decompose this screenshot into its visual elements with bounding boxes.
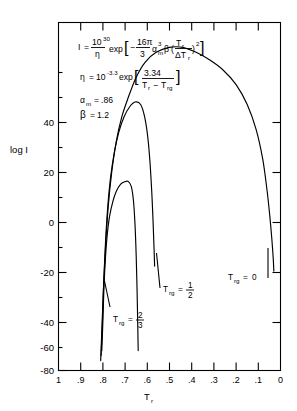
x-tick-label: .5 — [166, 375, 174, 385]
curve-label-trg-1-2: T rg = 1 2 — [163, 281, 194, 300]
param2-equals: = — [90, 110, 95, 120]
curve-label-trg-0: T rg = 0 — [228, 273, 257, 284]
x-tick-labels: 1 .9 .8 .7 .6 .5 .4 .3 .2 .1 0 — [56, 375, 283, 385]
y-axis-ticks — [59, 73, 67, 371]
curve-label-numerator: 2 — [138, 311, 143, 320]
y-axis-title: log I — [10, 144, 28, 155]
y-tick-label: -40 — [40, 317, 54, 328]
x-tick-label: .8 — [99, 375, 107, 385]
parameter-alpha-m: α m = .86 — [80, 95, 113, 107]
eq1-paren-close: ) — [192, 44, 195, 54]
x-axis-ticks-top — [81, 23, 259, 31]
param1-equals: = — [94, 95, 99, 105]
x-tick-label: .3 — [210, 375, 218, 385]
y-tick-label: -20 — [40, 267, 54, 278]
param1-subscript: m — [86, 100, 91, 107]
curve-label-symbol: T — [228, 273, 233, 282]
curve-label-trg-2-3: T rg = 2 3 — [113, 311, 144, 330]
chart-svg: 40 20 0 -20 -40 -60 -80 log I 1 .9 .8 .7… — [0, 0, 297, 411]
param2-symbol: β — [80, 109, 86, 120]
eq1-frac2-numerator: 16π — [137, 37, 153, 47]
curve-label-subscript: rg — [234, 277, 240, 284]
y-tick-label: 40 — [43, 117, 54, 128]
x-tick-label: .9 — [77, 375, 85, 385]
y-tick-label: -80 — [40, 365, 54, 376]
eq2-bracket-close: ] — [176, 68, 180, 85]
y-axis-ticks-right — [273, 123, 281, 323]
x-tick-label: .6 — [144, 375, 152, 385]
eq1-prefactor-numerator: 10 — [92, 37, 102, 47]
eq1-equals: = — [84, 42, 89, 52]
curve-trg-0 — [101, 47, 274, 361]
eq2-frac-numerator: 3.34 — [144, 68, 161, 78]
eq1-alpha-subscript: m — [158, 49, 163, 56]
curve-label-symbol: T — [163, 285, 168, 294]
eq1-alpha-exponent: 3 — [158, 40, 162, 47]
curve-label-equals: = — [243, 273, 248, 282]
eq1-inner-denominator-sub: r — [188, 54, 190, 61]
eq2-frac-den-b-sub: rg — [167, 84, 173, 91]
eq1-bracket-open: [ — [124, 39, 129, 56]
x-axis-title-main: T — [144, 391, 150, 402]
x-tick-label: .4 — [188, 375, 196, 385]
eq1-minus: − — [130, 42, 135, 52]
eq1-beta: β — [164, 44, 169, 54]
eq1-bracket-close: ] — [200, 39, 204, 56]
x-axis-title-sub: r — [151, 397, 153, 404]
nucleation-rate-chart: 40 20 0 -20 -40 -60 -80 log I 1 .9 .8 .7… — [0, 0, 297, 411]
eq1-inner-denominator: ΔT — [175, 50, 187, 60]
curve-label-subscript: rg — [119, 319, 125, 326]
x-tick-label: 1 — [56, 375, 61, 385]
curve-label-subscript: rg — [169, 289, 175, 296]
eq1-frac2-denominator: 3 — [140, 49, 145, 59]
y-tick-label: 20 — [43, 167, 54, 178]
eq2-base: 10 — [96, 72, 106, 82]
param2-value: 1.2 — [97, 110, 109, 120]
curve-label-numerator: 1 — [188, 281, 193, 290]
eq1-inner-numerator-sub: r — [182, 42, 184, 49]
eq2-frac-den-minus: − — [153, 80, 158, 90]
y-tick-label: 0 — [49, 217, 54, 228]
eq2-lhs: η — [80, 72, 85, 82]
x-tick-label: 0 — [278, 375, 283, 385]
eq1-prefactor-exponent: 30 — [103, 35, 110, 42]
eq2-bracket-open: [ — [134, 68, 139, 85]
x-tick-label: .2 — [232, 375, 240, 385]
eq2-frac-den-a-sub: r — [148, 84, 150, 91]
eq1-prefactor-denominator: η — [95, 49, 100, 59]
equation-viscosity: η = 10 -3.3 exp [ 3.34 T r − T rg ] — [80, 68, 180, 91]
curve-label-denominator: 3 — [138, 321, 143, 330]
param1-value: .86 — [101, 95, 113, 105]
x-tick-label: .7 — [121, 375, 129, 385]
x-axis-title: T r — [144, 391, 153, 404]
eq2-exp-text: exp — [119, 72, 133, 82]
param1-symbol: α — [80, 95, 85, 105]
eq1-lhs: I — [78, 42, 80, 52]
x-axis-ticks — [81, 363, 259, 371]
eq1-alpha: α — [152, 44, 157, 54]
eq2-base-exponent: -3.3 — [107, 69, 118, 76]
parameter-beta: β = 1.2 — [80, 109, 109, 120]
curve-label-equals: = — [178, 285, 183, 294]
y-tick-labels: 40 20 0 -20 -40 -60 -80 — [40, 117, 54, 376]
curve-label-denominator: 2 — [188, 291, 193, 300]
eq1-paren-open: ( — [171, 44, 174, 54]
x-tick-label: .1 — [255, 375, 263, 385]
y-tick-label: -60 — [40, 342, 54, 353]
eq1-exp-text: exp — [109, 44, 123, 54]
curve-label-symbol: T — [113, 315, 118, 324]
curves-group — [101, 47, 274, 361]
curve-label-value: 0 — [252, 273, 257, 282]
curve-label-equals: = — [128, 315, 133, 324]
eq2-equals: = — [89, 72, 94, 82]
